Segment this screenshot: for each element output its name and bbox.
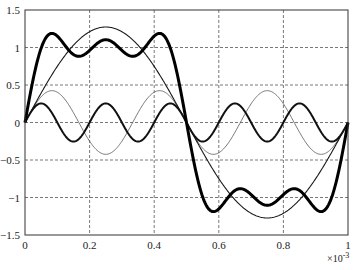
y-tick-label: 0 <box>15 117 21 129</box>
y-tick-label: −1 <box>8 192 20 204</box>
x-multiplier-exponent: -3 <box>343 251 350 260</box>
x-multiplier-label: ×10-3 <box>327 251 349 264</box>
y-tick-label: −0.5 <box>0 154 20 166</box>
x-tick-label: 0.4 <box>147 239 161 251</box>
y-tick-label: 1.5 <box>6 4 20 16</box>
square-wave-fourier-chart: 00.20.40.60.81 1.510.50−0.5−1−1.5 ×10-3 <box>0 0 355 270</box>
x-tick-label: 0.6 <box>212 239 226 251</box>
x-tick-label: 1 <box>345 239 351 251</box>
x-axis-ticks: 00.20.40.60.81 <box>22 239 351 251</box>
x-tick-label: 0 <box>22 239 28 251</box>
y-axis-ticks: 1.510.50−0.5−1−1.5 <box>0 4 20 241</box>
y-tick-label: 0.5 <box>6 79 20 91</box>
y-tick-label: −1.5 <box>0 229 20 241</box>
x-tick-label: 0.2 <box>83 239 97 251</box>
y-tick-label: 1 <box>15 42 21 54</box>
x-tick-label: 0.8 <box>277 239 291 251</box>
